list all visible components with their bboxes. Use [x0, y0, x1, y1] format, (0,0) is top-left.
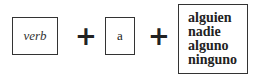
pronoun-box: alguien nadie alguno ninguno — [178, 4, 248, 74]
preposition-label: a — [117, 28, 123, 44]
pronoun-ninguno: ninguno — [188, 53, 237, 67]
pronoun-alguno: alguno — [188, 39, 228, 53]
plus-operator-2: + — [148, 23, 170, 49]
verb-box: verb — [12, 17, 58, 55]
verb-label: verb — [23, 28, 46, 44]
pronoun-nadie: nadie — [188, 25, 221, 39]
plus-operator-1: + — [75, 23, 97, 49]
pronoun-alguien: alguien — [188, 11, 232, 25]
preposition-box: a — [105, 17, 135, 55]
